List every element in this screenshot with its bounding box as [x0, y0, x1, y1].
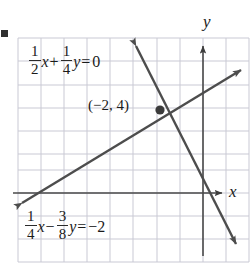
- equation-2-var-y: y: [69, 218, 76, 236]
- coordinate-graph-figure: y x (−2, 4) 1 2 x + 1 4 y = 0 1 4 x − 3: [0, 0, 252, 269]
- y-axis-label: y: [203, 12, 211, 32]
- equation-2-fraction-2: 3 8: [57, 209, 69, 243]
- equation-1: 1 2 x + 1 4 y = 0: [28, 45, 101, 79]
- equation-2-fraction-1: 1 4: [25, 209, 37, 243]
- numerator: 1: [29, 44, 41, 59]
- equation-1-var-y: y: [73, 53, 80, 71]
- equation-1-fraction-2: 1 4: [61, 44, 73, 78]
- denominator: 8: [57, 227, 69, 242]
- denominator: 2: [29, 62, 41, 77]
- equation-2: 1 4 x − 3 8 y = −2: [24, 210, 106, 244]
- numerator: 1: [61, 44, 73, 59]
- equation-2-rhs: −2: [87, 218, 106, 236]
- denominator: 4: [61, 62, 73, 77]
- equation-1-operator: +: [49, 53, 60, 71]
- equation-2-var-x: x: [38, 218, 45, 236]
- line-equation-1: [136, 46, 236, 244]
- bullet-marker: [1, 30, 8, 37]
- equation-2-operator: −: [45, 218, 56, 236]
- line-equation-2: [22, 70, 241, 203]
- numerator: 3: [57, 209, 69, 224]
- intersection-point-label: (−2, 4): [88, 97, 129, 114]
- numerator: 1: [25, 209, 37, 224]
- equation-2-equals: =: [76, 218, 87, 236]
- equation-1-rhs: 0: [91, 53, 101, 71]
- equation-1-var-x: x: [42, 53, 49, 71]
- x-axis-label: x: [229, 182, 237, 202]
- equation-1-fraction-1: 1 2: [29, 44, 41, 78]
- denominator: 4: [25, 227, 37, 242]
- equation-1-equals: =: [80, 53, 91, 71]
- intersection-point: [155, 105, 164, 114]
